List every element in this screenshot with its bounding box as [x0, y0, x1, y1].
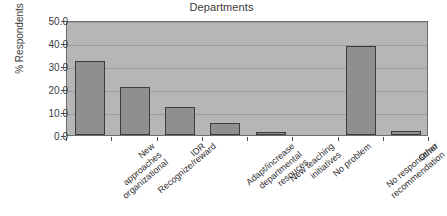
x-axis-labels: NewapproachesorganizationalRecognize/rew… [0, 0, 443, 216]
bar-chart: Departments % Respondents 0.010.020.030.… [0, 0, 443, 216]
